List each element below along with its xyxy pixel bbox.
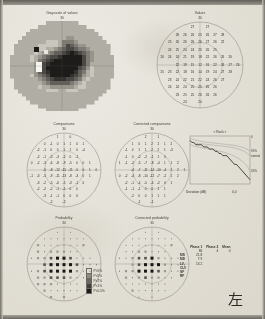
svg-text:0: 0 — [44, 142, 46, 146]
svg-text:-1: -1 — [50, 142, 53, 146]
grayscale-degrees: 30 — [10, 16, 114, 20]
svg-text:27: 27 — [206, 40, 210, 44]
svg-text:18: 18 — [183, 70, 187, 74]
svg-text:< Rank >: < Rank > — [214, 130, 227, 134]
grayscale-heatmap — [10, 21, 114, 111]
svg-text:-5: -5 — [50, 181, 53, 185]
svg-text:22: 22 — [213, 63, 217, 67]
corrected-comparisons-title: Corrected comparisons — [106, 122, 198, 126]
probability-legend-label: P<1% — [94, 284, 103, 288]
svg-text:1: 1 — [151, 194, 153, 198]
comparisons-title: Comparisons — [18, 122, 110, 126]
svg-text:1: 1 — [164, 187, 166, 191]
svg-text:1: 1 — [138, 148, 140, 152]
svg-text:19: 19 — [183, 63, 187, 67]
svg-text:24: 24 — [213, 70, 217, 74]
svg-text:-2: -2 — [131, 194, 134, 198]
svg-text:26: 26 — [213, 78, 217, 82]
svg-text:-7: -7 — [144, 161, 147, 165]
svg-text:-3: -3 — [76, 174, 79, 178]
panel-corrected-comparisons: Corrected comparisons 30 211012212-10112… — [106, 122, 198, 208]
svg-text:-2: -2 — [37, 161, 40, 165]
svg-text:-3: -3 — [50, 155, 53, 159]
svg-text:24: 24 — [198, 100, 202, 104]
svg-text:1: 1 — [145, 148, 147, 152]
svg-text:26: 26 — [236, 63, 240, 67]
svg-text:-9: -9 — [63, 161, 66, 165]
svg-text:-3: -3 — [69, 181, 72, 185]
corrected-probability-title: Corrected probability — [106, 216, 198, 220]
corrected-comparisons-field-plot: 211012212-1011221-3-10-2-2-1101-1-2-5-7-… — [106, 128, 198, 208]
svg-text:0: 0 — [83, 174, 85, 178]
svg-text:-2: -2 — [43, 187, 46, 191]
stats-cell-label: RF — [178, 274, 188, 278]
svg-text:1: 1 — [164, 142, 166, 146]
svg-text:1: 1 — [63, 148, 65, 152]
svg-text:2: 2 — [151, 142, 153, 146]
svg-text:24: 24 — [168, 85, 172, 89]
svg-text:-3: -3 — [37, 181, 40, 185]
svg-text:1: 1 — [132, 142, 134, 146]
svg-text:24: 24 — [168, 48, 172, 52]
svg-text:-2: -2 — [50, 187, 53, 191]
svg-text:1: 1 — [63, 142, 65, 146]
svg-text:-3: -3 — [56, 155, 59, 159]
svg-text:-8: -8 — [50, 168, 53, 172]
svg-text:0: 0 — [70, 187, 72, 191]
svg-text:22: 22 — [176, 63, 180, 67]
svg-text:26: 26 — [206, 33, 210, 37]
svg-text:0: 0 — [83, 161, 85, 165]
svg-text:-5: -5 — [138, 161, 141, 165]
svg-text:25: 25 — [198, 48, 202, 52]
svg-text:-1: -1 — [56, 187, 59, 191]
svg-text:-1: -1 — [43, 155, 46, 159]
svg-text:0: 0 — [31, 161, 33, 165]
svg-text:1: 1 — [83, 142, 85, 146]
svg-text:23: 23 — [168, 78, 172, 82]
svg-text:-2: -2 — [50, 200, 53, 204]
svg-text:26: 26 — [183, 40, 187, 44]
svg-text:-1: -1 — [30, 174, 33, 178]
svg-text:-8: -8 — [151, 161, 154, 165]
svg-text:15: 15 — [191, 63, 195, 67]
svg-text:1: 1 — [158, 194, 160, 198]
stats-cell-mean — [220, 274, 232, 278]
panel-comparisons: Comparisons 30 100-101101-2-100110-4-2-1… — [18, 122, 110, 208]
svg-text:-1: -1 — [125, 148, 128, 152]
svg-text:0: 0 — [138, 194, 140, 198]
svg-text:1: 1 — [70, 148, 72, 152]
svg-text:0: 0 — [57, 148, 59, 152]
svg-text:26: 26 — [213, 85, 217, 89]
svg-text:1: 1 — [164, 161, 166, 165]
svg-text:0: 0 — [145, 194, 147, 198]
svg-text:25: 25 — [198, 33, 202, 37]
svg-text:-4: -4 — [164, 168, 167, 172]
svg-text:1: 1 — [57, 135, 59, 139]
bebie-xvalue: 0,0 — [232, 190, 236, 194]
svg-text:0: 0 — [151, 187, 153, 191]
svg-text:0: 0 — [138, 142, 140, 146]
svg-text:26: 26 — [228, 55, 232, 59]
svg-text:1: 1 — [89, 174, 91, 178]
svg-text:26: 26 — [206, 85, 210, 89]
panel-grayscale: Grayscale of values 30 — [10, 11, 114, 111]
bebie-xlabel: Deviation (dB) — [186, 190, 206, 194]
svg-text:0: 0 — [57, 142, 59, 146]
svg-text:26: 26 — [221, 63, 225, 67]
svg-text:-1: -1 — [138, 187, 141, 191]
svg-text:0: 0 — [119, 174, 121, 178]
svg-text:27: 27 — [221, 78, 225, 82]
svg-text:2: 2 — [177, 174, 179, 178]
svg-text:-1: -1 — [131, 181, 134, 185]
svg-text:-2: -2 — [138, 155, 141, 159]
svg-text:1: 1 — [164, 194, 166, 198]
svg-text:-4: -4 — [131, 168, 134, 172]
svg-text:-2: -2 — [43, 181, 46, 185]
svg-text:24: 24 — [176, 78, 180, 82]
svg-text:2: 2 — [145, 135, 147, 139]
svg-text:1: 1 — [145, 142, 147, 146]
svg-text:-1: -1 — [56, 194, 59, 198]
svg-text:normal: normal — [251, 154, 260, 158]
svg-text:25: 25 — [161, 70, 165, 74]
svg-text:-2: -2 — [144, 155, 147, 159]
